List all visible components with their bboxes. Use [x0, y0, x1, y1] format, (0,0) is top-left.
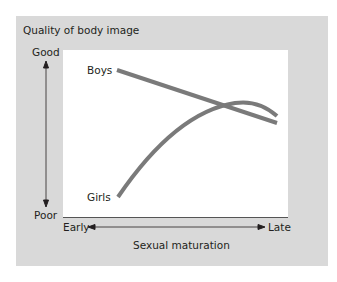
chart-graphics: [0, 0, 337, 282]
y-axis-arrow: [44, 61, 49, 207]
x-axis-arrow: [88, 225, 265, 230]
